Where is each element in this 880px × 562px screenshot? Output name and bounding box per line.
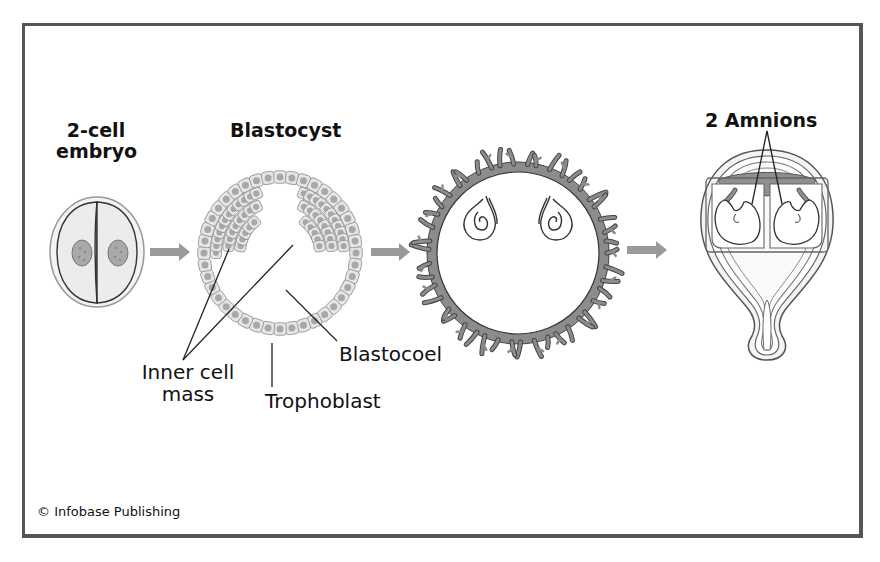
two-cell-embryo-title: 2-cell embryo	[56, 120, 136, 163]
title-line: embryo	[56, 141, 136, 162]
copyright-credit: © Infobase Publishing	[37, 505, 180, 520]
uterus-with-twins	[701, 131, 833, 360]
arrow-icon	[371, 243, 410, 261]
label-line: Inner cell	[128, 361, 248, 383]
arrow-icon	[627, 241, 667, 259]
trophoblast-label: Trophoblast	[265, 390, 381, 412]
inner-cell-mass-label: Inner cell mass	[128, 361, 248, 406]
blastocoel-label: Blastocoel	[339, 343, 442, 365]
blastocyst-title: Blastocyst	[230, 120, 341, 141]
arrow-icon	[150, 243, 190, 261]
amnions-title: 2 Amnions	[705, 110, 817, 131]
embryo-development-diagram	[0, 0, 880, 562]
implanted-embryos-with-villi	[411, 149, 622, 357]
blastocyst	[198, 171, 363, 336]
title-line: 2-cell	[56, 120, 136, 141]
two-cell-embryo	[50, 197, 144, 307]
label-line: mass	[128, 383, 248, 405]
